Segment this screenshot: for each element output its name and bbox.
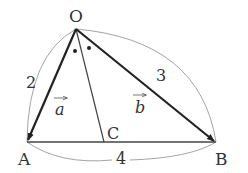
length-OB: 3 <box>156 66 166 85</box>
triangle-diagram: O A B C 2 3 4 a b <box>0 0 248 173</box>
label-B: B <box>215 149 228 169</box>
label-C: C <box>107 124 119 143</box>
angle-dot-right <box>87 46 91 50</box>
vector-a-label: a <box>55 100 65 119</box>
length-OA: 2 <box>26 73 36 92</box>
length-AB: 4 <box>116 149 126 168</box>
segment-OC <box>76 29 104 142</box>
diagram-svg: O A B C 2 3 4 a b <box>0 0 248 173</box>
label-O: O <box>69 6 83 26</box>
arc-AB-length <box>27 142 112 161</box>
vector-b-label: b <box>135 98 145 117</box>
label-A: A <box>17 149 31 169</box>
arc-AB-length-right <box>130 142 216 160</box>
angle-dot-left <box>73 49 77 53</box>
